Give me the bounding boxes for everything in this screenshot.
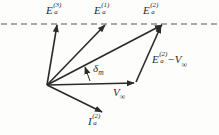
label-E-a-2-minus-V: E(2)a − V∞ — [152, 52, 187, 67]
label-E-a-1: E(1)a — [94, 3, 109, 18]
label-I-a-2: I(2)a — [88, 114, 100, 129]
delta-angle-pointer — [85, 67, 90, 81]
vector-I-a-2 — [47, 85, 102, 112]
label-E-a-2: E(2)a — [143, 3, 158, 18]
label-E-a-3: E(3)a — [46, 3, 61, 18]
phasor-diagram: E(3)aE(1)aE(2)aE(2)a − V∞δmV∞I(2)a — [0, 0, 219, 135]
vector-V-infinity — [47, 83, 134, 85]
vector-E-a-2 — [47, 25, 162, 85]
label-delta-m: δm — [93, 63, 104, 74]
label-V-infinity: V∞ — [113, 87, 125, 98]
